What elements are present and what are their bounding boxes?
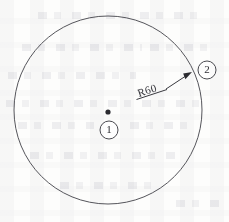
drawing-svg: R60 1 2	[0, 0, 229, 222]
balloon-1-label: 1	[106, 123, 112, 135]
technical-drawing-canvas: R60 1 2	[0, 0, 229, 222]
balloon-1[interactable]: 1	[100, 121, 118, 139]
balloon-2[interactable]: 2	[198, 61, 216, 79]
center-point-marker	[105, 109, 110, 114]
balloon-2-label: 2	[204, 63, 210, 75]
radius-dimension-label: R60	[136, 81, 158, 98]
radius-arrowhead	[183, 72, 192, 79]
